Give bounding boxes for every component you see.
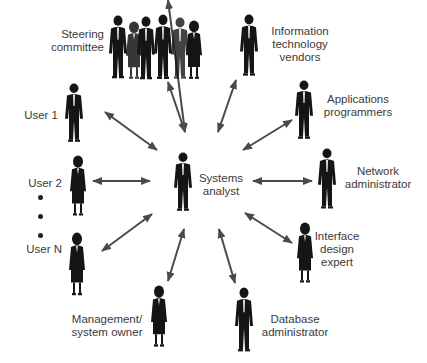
applications-programmers-figure — [295, 81, 313, 139]
label-line: programmers — [318, 106, 398, 119]
label-network-administrator: Network administrator — [338, 165, 418, 191]
label-line: User 2 — [10, 177, 62, 190]
label-applications-programmers: Applications programmers — [318, 93, 398, 119]
arrow-interface-design-expert — [245, 213, 292, 243]
label-line: vendors — [260, 51, 340, 64]
label-database-administrator: Database administrator — [255, 313, 335, 339]
arrow-database-administrator — [219, 229, 235, 283]
label-line: analyst — [194, 185, 248, 198]
label-line: design — [312, 243, 362, 256]
label-line: Database — [255, 313, 335, 326]
systems-analyst-figure — [174, 153, 192, 211]
label-line: Information — [260, 25, 340, 38]
management-system-owner-figure — [151, 286, 167, 347]
label-line: Interface — [312, 230, 362, 243]
label-steering-committee: Steering committee — [40, 28, 104, 54]
label-systems-analyst: Systems analyst — [194, 172, 248, 198]
database-administrator-figure — [235, 288, 253, 352]
label-management-system-owner: Management/ system owner — [66, 313, 148, 339]
label-user-2: User 2 — [10, 177, 62, 190]
arrow-applications-programmers — [243, 120, 292, 150]
ellipsis-dot — [38, 233, 43, 238]
interface-design-expert-figure — [297, 223, 313, 283]
label-line: system owner — [66, 326, 148, 339]
user-2-figure — [70, 156, 86, 216]
label-user-n: User N — [10, 243, 62, 256]
label-interface-design-expert: Interface design expert — [312, 230, 362, 269]
label-line: Management/ — [66, 313, 148, 326]
arrow-management-system-owner — [168, 229, 184, 281]
label-line: administrator — [255, 326, 335, 339]
label-user-1: User 1 — [10, 109, 58, 122]
arrow-it-vendors — [218, 80, 236, 132]
it-vendors-figure — [240, 15, 258, 76]
label-line: User 1 — [10, 109, 58, 122]
label-line: administrator — [338, 178, 418, 191]
label-line: User N — [10, 243, 62, 256]
label-line: technology — [260, 38, 340, 51]
label-line: expert — [312, 256, 362, 269]
label-line: Applications — [318, 93, 398, 106]
label-line: committee — [40, 41, 104, 54]
label-line: Systems — [194, 172, 248, 185]
ellipsis-dot — [38, 214, 43, 219]
label-line: Steering — [40, 28, 104, 41]
ellipsis-dot — [38, 195, 43, 200]
user-n-figure — [69, 233, 85, 296]
label-line: Network — [338, 165, 418, 178]
arrow-user-n — [102, 214, 152, 251]
arrow-user-1 — [105, 112, 157, 150]
user-1-figure — [65, 84, 83, 142]
steering-committee-figure — [109, 15, 202, 80]
label-it-vendors: Information technology vendors — [260, 25, 340, 64]
network-administrator-figure — [318, 149, 336, 209]
